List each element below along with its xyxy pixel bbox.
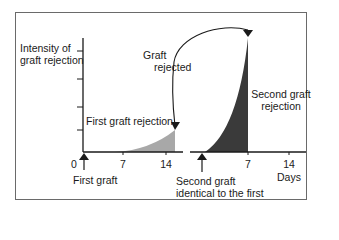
first-rejection-area bbox=[115, 130, 175, 152]
tick-0: 0 bbox=[71, 158, 77, 170]
first-graft-rejection-label: First graft rejection bbox=[86, 115, 173, 127]
tick-14-first: 14 bbox=[157, 158, 175, 170]
y-axis-label: Intensity of graft rejection bbox=[20, 42, 84, 66]
x-axis-unit: Days bbox=[275, 171, 303, 183]
second-graft-label: Second graft identical to the first bbox=[176, 175, 264, 199]
tick-7-first: 7 bbox=[116, 158, 130, 170]
first-graft-label: First graft bbox=[73, 174, 117, 186]
tick-7-second: 7 bbox=[241, 158, 255, 170]
second-rejection-area bbox=[205, 38, 248, 152]
graft-rejected-label: Graft rejected bbox=[143, 49, 191, 73]
tick-14-second: 14 bbox=[280, 158, 298, 170]
second-graft-rejection-label: Second graft rejection bbox=[248, 88, 314, 112]
